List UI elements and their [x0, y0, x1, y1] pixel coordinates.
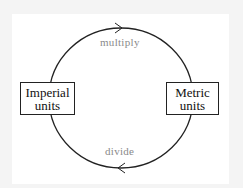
- edge-label-divide: divide: [105, 145, 134, 157]
- node-metric-line2: units: [180, 99, 205, 112]
- edge-label-multiply: multiply: [100, 36, 140, 48]
- node-imperial-line1: Imperial: [25, 86, 69, 99]
- node-imperial-line2: units: [35, 99, 60, 112]
- node-imperial-units: Imperial units: [20, 82, 75, 115]
- node-metric-line1: Metric: [175, 86, 210, 99]
- node-metric-units: Metric units: [166, 82, 219, 115]
